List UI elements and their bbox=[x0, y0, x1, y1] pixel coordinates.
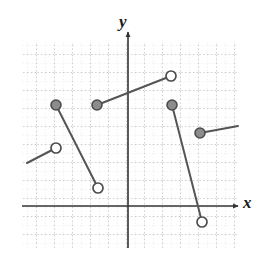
open-endpoint-left bbox=[51, 143, 61, 153]
closed-endpoint-far-right bbox=[195, 128, 205, 138]
closed-endpoint-right bbox=[167, 100, 177, 110]
closed-endpoint-upper-left bbox=[51, 100, 61, 110]
graph-figure: y x bbox=[0, 0, 264, 260]
x-axis-label: x bbox=[243, 193, 252, 213]
open-endpoint-bottom-right bbox=[197, 217, 207, 227]
y-axis-label: y bbox=[119, 12, 127, 32]
function-plot-svg bbox=[0, 0, 264, 260]
open-endpoint-upper-right bbox=[166, 71, 176, 81]
open-endpoint-lower-middle bbox=[93, 183, 103, 193]
closed-endpoint-middle bbox=[92, 100, 102, 110]
